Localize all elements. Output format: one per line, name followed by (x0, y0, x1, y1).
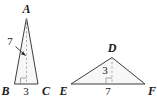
triangle-def-group: D E F 3 7 (58, 41, 156, 98)
vertex-label-e: E (58, 84, 67, 98)
vertex-label-a: A (21, 2, 30, 16)
triangle-def-shape (71, 58, 145, 85)
geometry-diagram: A B C 7 3 D E F 3 7 (0, 0, 157, 100)
triangle-abc-base-label: 3 (23, 85, 29, 97)
triangle-abc-group: A B C 7 3 (0, 2, 51, 98)
triangle-abc-height-label: 7 (7, 35, 13, 47)
geometry-canvas: A B C 7 3 D E F 3 7 (0, 0, 157, 100)
vertex-label-f: F (147, 84, 156, 98)
triangle-def-height-label: 3 (102, 64, 108, 76)
vertex-label-d: D (107, 41, 117, 55)
vertex-label-c: C (42, 84, 51, 98)
triangle-def-base-label: 7 (105, 85, 111, 97)
vertex-label-b: B (0, 84, 9, 98)
